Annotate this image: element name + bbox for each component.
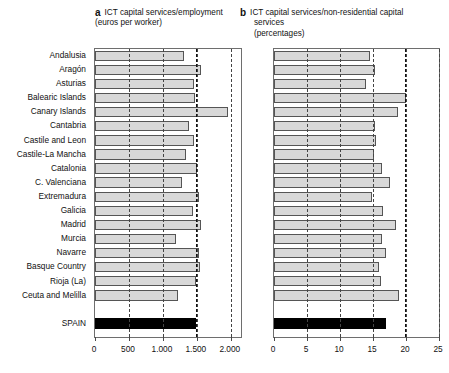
panel-a-title-line-1: ICT capital services/employment xyxy=(105,8,223,18)
gridline xyxy=(307,49,308,337)
gridline xyxy=(439,49,440,337)
bar xyxy=(274,220,396,230)
bar xyxy=(95,192,199,202)
x-tick xyxy=(95,337,96,341)
bar xyxy=(95,276,196,286)
bar-row xyxy=(274,218,439,232)
category-label: Galicia xyxy=(0,203,90,217)
bar xyxy=(274,290,399,300)
national-average-reference-line xyxy=(196,49,197,337)
panel-b-title-line-2: services xyxy=(240,18,449,28)
bar xyxy=(95,163,197,173)
x-tick-label: 2.000 xyxy=(219,343,240,355)
panel-a-title-line-2: (euros per worker) xyxy=(95,18,245,28)
bar-row xyxy=(95,105,241,119)
bar xyxy=(274,79,366,89)
bar xyxy=(95,65,201,75)
bar xyxy=(95,79,194,89)
x-tick xyxy=(163,337,164,341)
bar xyxy=(95,121,189,131)
bar-row-total xyxy=(95,317,241,331)
gridline xyxy=(373,49,374,337)
category-axis-spacer xyxy=(0,302,90,316)
category-label: Extremadura xyxy=(0,189,90,203)
bar-row xyxy=(95,275,241,289)
bar-row xyxy=(95,190,241,204)
x-tick xyxy=(307,337,308,341)
panel-b-letter: b xyxy=(240,8,246,18)
bar-row-spacer xyxy=(95,303,241,317)
bar xyxy=(274,163,382,173)
bar-row xyxy=(274,49,439,63)
bar xyxy=(95,149,186,159)
panel-a-x-axis-labels: 05001.0001.5002.000 xyxy=(94,343,242,355)
bar-row xyxy=(95,119,241,133)
panel-b-bars xyxy=(274,49,439,337)
category-label: Ceuta and Melilla xyxy=(0,288,90,302)
x-tick xyxy=(406,337,407,341)
x-tick xyxy=(373,337,374,341)
bar-row xyxy=(95,91,241,105)
bar-row xyxy=(274,260,439,274)
category-label: Navarre xyxy=(0,245,90,259)
bar-row xyxy=(95,260,241,274)
bar-row xyxy=(95,148,241,162)
gridline xyxy=(197,49,198,337)
x-tick xyxy=(231,337,232,341)
bar xyxy=(274,121,375,131)
bar-row xyxy=(95,289,241,303)
panel-b-title-line-3: (percentages) xyxy=(240,29,449,39)
bar-row xyxy=(95,176,241,190)
panel-a-bars xyxy=(95,49,241,337)
x-tick-label: 5 xyxy=(304,343,309,355)
bar xyxy=(274,206,383,216)
panel-a-letter: a xyxy=(95,8,101,18)
national-average-reference-line xyxy=(405,49,406,337)
bar-row xyxy=(95,232,241,246)
gridline xyxy=(340,49,341,337)
panel-b-title: b ICT capital services/non-residential c… xyxy=(240,8,449,39)
bar-row xyxy=(274,77,439,91)
bar-row xyxy=(95,218,241,232)
bar xyxy=(274,234,382,244)
category-label: Madrid xyxy=(0,217,90,231)
bar-row xyxy=(95,134,241,148)
category-label: C. Valenciana xyxy=(0,175,90,189)
bar-row xyxy=(274,63,439,77)
category-label: Balearic Islands xyxy=(0,90,90,104)
bar xyxy=(95,262,200,272)
panel-a-plot xyxy=(94,48,242,338)
bar-row xyxy=(274,119,439,133)
category-label: Aragón xyxy=(0,62,90,76)
category-axis-labels: AndalusiaAragónAsturiasBalearic IslandsC… xyxy=(0,48,90,330)
category-label: Asturias xyxy=(0,76,90,90)
panel-a-title: a ICT capital services/employment (euros… xyxy=(95,8,245,29)
bar xyxy=(95,93,195,103)
category-label: Rioja (La) xyxy=(0,274,90,288)
category-label: Canary Islands xyxy=(0,104,90,118)
gridline xyxy=(406,49,407,337)
category-label: Andalusia xyxy=(0,48,90,62)
x-tick-label: 1.000 xyxy=(152,343,173,355)
bar xyxy=(274,51,370,61)
bar xyxy=(95,290,178,300)
x-tick xyxy=(340,337,341,341)
panel-b-x-axis-labels: 0510152025 xyxy=(273,343,440,355)
bar xyxy=(274,65,375,75)
bar xyxy=(95,177,182,187)
bar-row xyxy=(274,148,439,162)
bar-total xyxy=(274,318,386,328)
bar xyxy=(274,107,398,117)
x-tick-label: 0 xyxy=(271,343,276,355)
category-label: Cantabria xyxy=(0,118,90,132)
bar xyxy=(95,135,194,145)
bar-row xyxy=(95,49,241,63)
x-tick-label: 10 xyxy=(334,343,343,355)
category-label: Catalonia xyxy=(0,161,90,175)
panel-b-plot xyxy=(273,48,440,338)
bar-row xyxy=(274,275,439,289)
panel-b-title-line-1: ICT capital services/non-residential cap… xyxy=(250,8,403,18)
bar-row xyxy=(274,190,439,204)
bar-row xyxy=(274,91,439,105)
gridline xyxy=(163,49,164,337)
